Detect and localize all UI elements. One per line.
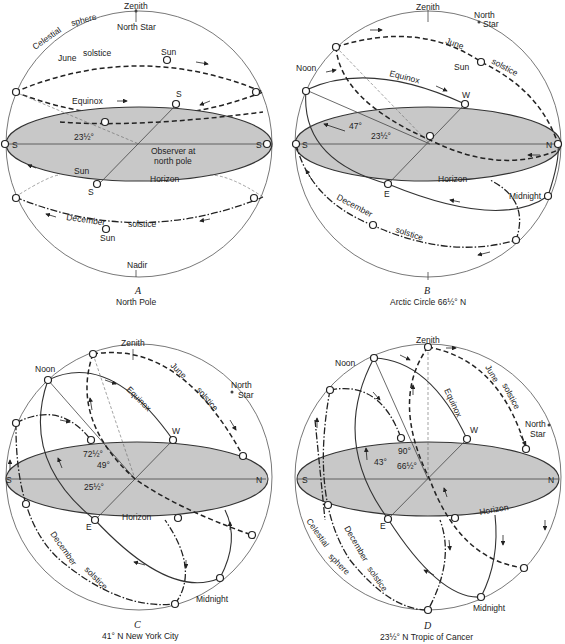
- june-solstice-path: [93, 352, 243, 456]
- sun-marker: [478, 59, 485, 66]
- sun-marker: [425, 607, 432, 614]
- direction-arrow: [46, 214, 56, 217]
- label-angle-90: 90°: [398, 446, 411, 456]
- north-star-icon: [478, 21, 481, 24]
- sun-marker: [370, 222, 377, 229]
- label-equinox: Equinox: [72, 96, 103, 106]
- panel-d: Zenith Noon June solstice Equinox North …: [295, 335, 561, 642]
- label-e: E: [380, 521, 386, 531]
- label-equinox: Equinox: [442, 387, 464, 420]
- label-w: W: [462, 90, 470, 100]
- panel-letter: A: [134, 285, 142, 296]
- sun-marker: [325, 502, 332, 509]
- label-zenith: Zenith: [416, 2, 440, 12]
- label-w: W: [172, 426, 180, 436]
- sun-marker: [303, 88, 310, 95]
- label-s: S: [302, 475, 308, 485]
- panel-letter: B: [424, 285, 430, 296]
- direction-arrow: [478, 252, 490, 255]
- label-angle-25: 25½°: [84, 482, 104, 492]
- label-horizon: Horizon: [150, 174, 180, 184]
- sun-marker: [2, 141, 9, 148]
- sun-marker: [478, 594, 485, 601]
- panel-caption: 23½° N Tropic of Cancer: [380, 632, 473, 642]
- label-star: Star: [483, 19, 499, 29]
- sun-marker: [45, 377, 52, 384]
- june-solstice-path: [15, 66, 263, 92]
- label-solstice-dec: solstice: [394, 224, 424, 242]
- label-midnight: Midnight: [196, 594, 229, 604]
- label-december: December: [66, 212, 106, 227]
- sun-marker: [13, 195, 20, 202]
- sun-marker: [170, 437, 177, 444]
- december-back-path: [15, 175, 60, 197]
- sun-marker: [251, 195, 258, 202]
- sun-marker: [249, 532, 256, 539]
- sun-marker: [371, 355, 378, 362]
- label-solstice-dec: solstice: [83, 564, 110, 591]
- sun-marker: [13, 89, 20, 96]
- sun-marker: [102, 119, 109, 126]
- panel-c: Zenith Noon June solstice North Star Equ…: [6, 338, 272, 641]
- sun-marker: [264, 141, 271, 148]
- label-sun: Sun: [454, 62, 469, 72]
- direction-arrow: [200, 101, 210, 105]
- label-angle-43: 43°: [374, 457, 387, 467]
- label-e: E: [86, 522, 92, 532]
- label-december: December: [48, 529, 79, 567]
- label-n: N: [256, 475, 262, 485]
- sun-marker: [462, 101, 469, 108]
- sun-marker: [555, 141, 562, 148]
- label-observer: Observer at: [151, 146, 196, 156]
- label-north-star: North Star: [117, 22, 156, 32]
- label-celestial: Celestial: [304, 516, 331, 549]
- label-w: W: [470, 425, 478, 435]
- panel-letter: D: [423, 620, 432, 631]
- label-solstice: solstice: [500, 381, 522, 411]
- sun-marker: [88, 437, 95, 444]
- sun-marker: [94, 181, 101, 188]
- label-solstice: solstice: [194, 385, 220, 413]
- equinox-path-back: [220, 510, 231, 578]
- label-horizon: Horizon: [122, 512, 152, 522]
- label-zenith: Zenith: [121, 338, 145, 348]
- sun-marker: [385, 181, 392, 188]
- label-june: June: [58, 53, 77, 63]
- label-observer-2: north pole: [154, 156, 192, 166]
- label-noon: Noon: [35, 364, 56, 374]
- label-solstice-dec: solstice: [128, 219, 157, 229]
- label-s: S: [302, 140, 308, 150]
- sun-marker: [13, 420, 20, 427]
- panel-caption: North Pole: [116, 297, 156, 307]
- sun-marker: [23, 501, 30, 508]
- label-june: June: [483, 363, 501, 384]
- direction-arrow: [196, 62, 208, 64]
- label-sun: Sun: [161, 47, 176, 57]
- sun-marker: [172, 601, 179, 608]
- label-december: December: [342, 524, 370, 563]
- label-solstice: solstice: [83, 48, 112, 58]
- label-june: June: [444, 35, 465, 51]
- label-north: North: [525, 419, 546, 429]
- sun-marker: [452, 515, 459, 522]
- label-angle: 23½°: [74, 132, 94, 142]
- label-angle-72: 72½°: [83, 449, 103, 459]
- label-equinox: Equinox: [125, 384, 154, 413]
- sun-marker: [293, 141, 300, 148]
- label-zenith: Zenith: [124, 1, 148, 11]
- sun-marker: [464, 436, 471, 443]
- sun-marker: [545, 193, 552, 200]
- panel-caption: Arctic Circle 66½° N: [390, 297, 466, 307]
- label-sun-equinox: Sun: [74, 166, 89, 176]
- label-s-top: S: [176, 89, 182, 99]
- sun-marker: [240, 453, 247, 460]
- panel-caption: 41° N New York City: [102, 631, 179, 641]
- sun-marker: [327, 387, 334, 394]
- sun-marker: [333, 44, 340, 51]
- december-solstice-path: [16, 415, 91, 440]
- sun-marker: [90, 351, 97, 358]
- december-back-path-right: [210, 175, 263, 197]
- label-s-left: S: [12, 140, 18, 150]
- label-star: Star: [238, 390, 254, 400]
- direction-arrow: [450, 200, 460, 202]
